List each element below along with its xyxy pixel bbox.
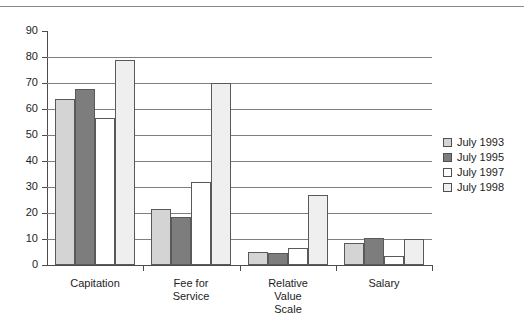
legend-item[interactable]: July 1993 (443, 135, 521, 149)
y-tick-30 (42, 187, 47, 188)
y-tick-label-80: 80 (14, 51, 38, 62)
y-tick-label-50: 50 (14, 129, 38, 140)
y-tick-20 (42, 213, 47, 214)
x-tick-3 (336, 266, 337, 271)
y-tick-label-20: 20 (14, 207, 38, 218)
bar-chart-figure: 9080706050403020100 CapitationFee for Se… (0, 0, 524, 321)
y-tick-label-60: 60 (14, 103, 38, 114)
bar (55, 99, 75, 265)
legend-item[interactable]: July 1995 (443, 150, 521, 164)
bar (384, 256, 404, 265)
y-tick-label-0: 0 (14, 259, 38, 270)
legend-item-label: July 1997 (457, 167, 504, 178)
y-tick-label-70: 70 (14, 77, 38, 88)
bar (268, 253, 288, 265)
legend-swatch-july-1995 (443, 153, 452, 162)
legend-swatch-july-1998 (443, 183, 452, 192)
bar (191, 182, 211, 265)
y-tick-label-30: 30 (14, 181, 38, 192)
legend-item-label: July 1995 (457, 152, 504, 163)
y-tick-40 (42, 161, 47, 162)
bar (115, 60, 135, 265)
bar (248, 252, 268, 265)
y-tick-label-10: 10 (14, 233, 38, 244)
bar (404, 239, 424, 265)
y-tick-50 (42, 135, 47, 136)
header-rule (0, 6, 524, 7)
bar (364, 238, 384, 265)
gridline-70 (47, 83, 432, 84)
legend-swatch-july-1993 (443, 138, 452, 147)
x-tick-1 (143, 266, 144, 271)
bar (95, 118, 115, 265)
legend-item-label: July 1998 (457, 182, 504, 193)
legend-item[interactable]: July 1998 (443, 180, 521, 194)
bar (211, 83, 231, 265)
chart-legend: July 1993July 1995July 1997July 1998 (443, 135, 521, 195)
y-tick-80 (42, 57, 47, 58)
legend-swatch-july-1997 (443, 168, 452, 177)
y-tick-90 (42, 31, 47, 32)
x-category-label: Salary (336, 277, 432, 290)
x-tick-4 (432, 266, 433, 271)
x-category-label: Capitation (47, 277, 143, 290)
bar (171, 217, 191, 265)
legend-item-label: July 1993 (457, 137, 504, 148)
y-axis-tick-labels: 9080706050403020100 (8, 0, 38, 321)
gridline-80 (47, 57, 432, 58)
bar (344, 243, 364, 265)
y-tick-10 (42, 239, 47, 240)
bar (308, 195, 328, 265)
y-tick-label-40: 40 (14, 155, 38, 166)
y-tick-60 (42, 109, 47, 110)
bar (75, 89, 95, 265)
bar (151, 209, 171, 265)
y-tick-70 (42, 83, 47, 84)
legend-item[interactable]: July 1997 (443, 165, 521, 179)
x-category-label: Relative Value Scale (240, 277, 336, 316)
x-category-label: Fee for Service (143, 277, 239, 303)
y-tick-label-90: 90 (14, 25, 38, 36)
gridline-60 (47, 109, 432, 110)
bar (288, 248, 308, 265)
x-tick-2 (240, 266, 241, 271)
y-tick-0 (42, 265, 47, 266)
plot-area (47, 31, 432, 265)
